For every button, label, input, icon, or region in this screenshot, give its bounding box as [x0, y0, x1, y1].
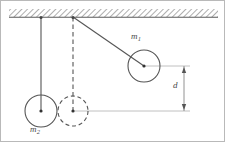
mass-one-label: m1: [131, 32, 141, 41]
mass-two-label: m2: [30, 125, 40, 134]
mass-two-center-dot: [39, 109, 42, 112]
ceiling-group: [9, 9, 218, 17]
anchor-point-left: [40, 16, 43, 19]
dimension-d-arrow-top: [182, 67, 186, 73]
anchor-point-right: [72, 16, 75, 19]
mass-two-label-subscript: 2: [37, 128, 40, 135]
figure-canvas: [1, 1, 225, 142]
ceiling-hatch: [9, 9, 218, 17]
dimension-d-group: [182, 66, 186, 111]
mass-one-label-text: m: [131, 31, 138, 41]
mass-one-center-dot: [142, 64, 145, 67]
mass-two-label-text: m: [30, 124, 37, 134]
physics-figure: m1 m2 d: [0, 0, 225, 142]
string-mass-one: [73, 17, 144, 66]
mass-one-label-subscript: 1: [138, 35, 141, 42]
reference-circle-center-dot: [71, 109, 74, 112]
dimension-d-arrow-bottom: [182, 104, 186, 110]
distance-d-label: d: [173, 81, 178, 90]
